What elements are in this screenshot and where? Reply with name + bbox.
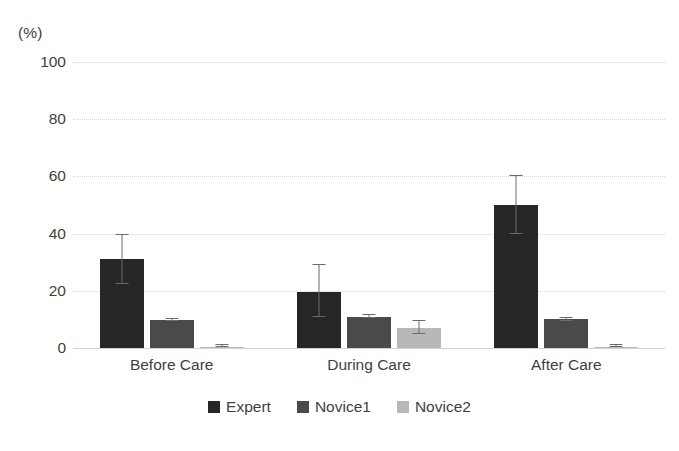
- error-bar-cap-lower: [215, 346, 228, 347]
- bar-groups: [73, 62, 665, 348]
- error-bar-cap-upper: [362, 314, 375, 315]
- bar[interactable]: [150, 320, 194, 348]
- bar-slot: [494, 62, 538, 348]
- bar-group-bars: [270, 62, 467, 348]
- y-tick-label-20: 20: [2, 282, 66, 300]
- y-axis-tick-labels: 100806040200: [0, 62, 66, 348]
- bar-slot: [100, 62, 144, 348]
- bar-group: [468, 62, 665, 348]
- bar-chart: (%) 100806040200 Before CareDuring CareA…: [0, 0, 679, 451]
- error-bar-stem: [318, 265, 319, 316]
- error-bar-cap-upper: [165, 318, 178, 319]
- legend-label: Expert: [226, 398, 271, 416]
- plot-area: [73, 62, 665, 348]
- error-bar-stem: [121, 235, 122, 284]
- x-axis-label-during-care: During Care: [270, 356, 467, 374]
- gridline-0: [73, 348, 665, 349]
- error-bar-stem: [516, 176, 517, 233]
- error-bar-cap-lower: [510, 233, 523, 234]
- error-bar-cap-lower: [412, 333, 425, 334]
- bar-group-bars: [73, 62, 270, 348]
- legend-item-novice1[interactable]: Novice1: [297, 398, 371, 416]
- legend-label: Novice1: [315, 398, 371, 416]
- legend-item-expert[interactable]: Expert: [208, 398, 271, 416]
- error-bar-cap-upper: [610, 344, 623, 345]
- error-bar-cap-lower: [165, 320, 178, 321]
- y-tick-label-40: 40: [2, 225, 66, 243]
- y-tick-label-80: 80: [2, 110, 66, 128]
- legend-swatch-icon: [397, 401, 409, 413]
- error-bar-cap-upper: [215, 344, 228, 345]
- bar-slot: [297, 62, 341, 348]
- x-axis-category-labels: Before CareDuring CareAfter Care: [73, 356, 665, 374]
- legend-label: Novice2: [415, 398, 471, 416]
- bar-slot: [150, 62, 194, 348]
- error-bar-cap-upper: [412, 320, 425, 321]
- legend-swatch-icon: [208, 401, 220, 413]
- error-bar-cap-upper: [115, 234, 128, 235]
- error-bar-cap-upper: [312, 264, 325, 265]
- error-bar-cap-upper: [560, 317, 573, 318]
- y-tick-label-60: 60: [2, 167, 66, 185]
- y-axis-unit-label: (%): [18, 24, 43, 42]
- bar-slot: [397, 62, 441, 348]
- legend-item-novice2[interactable]: Novice2: [397, 398, 471, 416]
- error-bar-cap-lower: [560, 320, 573, 321]
- y-tick-label-0: 0: [2, 339, 66, 357]
- bar-slot: [544, 62, 588, 348]
- bar-slot: [200, 62, 244, 348]
- error-bar-cap-lower: [362, 317, 375, 318]
- error-bar-cap-lower: [610, 346, 623, 347]
- bar[interactable]: [544, 319, 588, 348]
- bar-group: [270, 62, 467, 348]
- error-bar-cap-lower: [312, 316, 325, 317]
- legend: ExpertNovice1Novice2: [0, 398, 679, 416]
- x-axis-label-before-care: Before Care: [73, 356, 270, 374]
- bar-group-bars: [468, 62, 665, 348]
- legend-swatch-icon: [297, 401, 309, 413]
- bar[interactable]: [347, 317, 391, 348]
- y-tick-label-100: 100: [2, 53, 66, 71]
- bar-slot: [594, 62, 638, 348]
- bar-group: [73, 62, 270, 348]
- x-axis-label-after-care: After Care: [468, 356, 665, 374]
- error-bar-cap-upper: [510, 175, 523, 176]
- error-bar-cap-lower: [115, 283, 128, 284]
- bar-slot: [347, 62, 391, 348]
